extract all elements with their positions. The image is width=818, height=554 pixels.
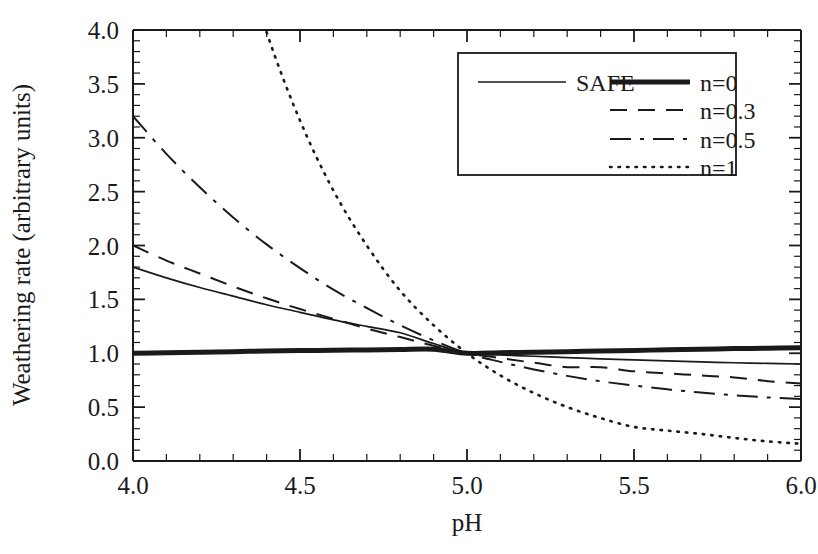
x-axis-tick-labels: 4.04.55.05.56.0 [117,472,816,499]
y-axis-title: Weathering rate (arbitrary units) [8,84,36,406]
y-axis-tick-labels: 0.00.51.01.52.02.53.03.54.0 [88,17,119,475]
y-tick-label: 4.0 [88,17,119,44]
y-tick-label: 3.5 [88,71,119,98]
weathering-rate-chart: 4.04.55.05.56.0 0.00.51.01.52.02.53.03.5… [0,0,818,554]
y-tick-label: 0.5 [88,394,119,421]
x-tick-label: 6.0 [785,472,816,499]
y-tick-label: 0.0 [88,448,119,475]
legend-label-n-1: n=1 [700,155,738,181]
x-tick-label: 5.0 [451,472,482,499]
legend-label-n-0: n=0 [700,70,738,96]
legend-label-n-0-5: n=0.5 [700,127,756,153]
x-tick-label: 5.5 [618,472,649,499]
x-tick-label: 4.0 [117,472,148,499]
y-tick-label: 3.0 [88,125,119,152]
chart-legend: SAFEn=0n=0.3n=0.5n=1 [458,53,756,181]
chart-svg: 4.04.55.05.56.0 0.00.51.01.52.02.53.03.5… [0,0,818,554]
y-tick-label: 1.5 [88,286,119,313]
y-tick-label: 2.5 [88,179,119,206]
legend-label-n-0-3: n=0.3 [700,98,756,124]
y-tick-label: 2.0 [88,233,119,260]
y-tick-label: 1.0 [88,340,119,367]
x-tick-label: 4.5 [284,472,315,499]
series-line-n-0-3 [133,246,801,384]
x-axis-title: pH [452,509,483,536]
